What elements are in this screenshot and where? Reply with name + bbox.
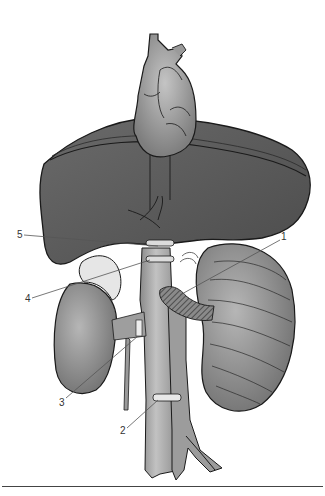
clip-3 bbox=[136, 320, 142, 336]
callout-1: 1 bbox=[281, 232, 287, 242]
callout-2: 2 bbox=[120, 426, 126, 436]
ring-4 bbox=[146, 256, 174, 262]
ring-2 bbox=[153, 394, 181, 401]
adrenal-gland-left bbox=[182, 252, 198, 258]
callout-4: 4 bbox=[25, 294, 31, 304]
bottom-divider bbox=[2, 486, 323, 487]
callout-3: 3 bbox=[59, 398, 65, 408]
anatomy-illustration bbox=[0, 0, 325, 496]
right-kidney bbox=[54, 283, 116, 393]
heart bbox=[134, 34, 196, 157]
callout-5: 5 bbox=[17, 230, 23, 240]
left-kidney bbox=[196, 244, 295, 411]
